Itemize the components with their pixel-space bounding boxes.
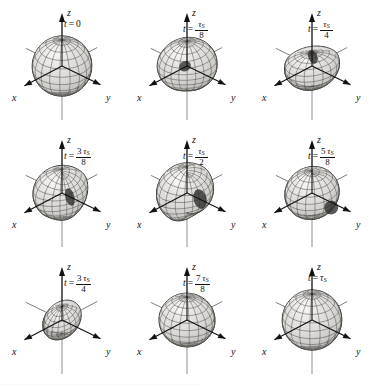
fraction-numerator: τS [197, 20, 205, 30]
figure-panel: zxyt=3 τS4 [0, 254, 125, 381]
figure-panel: zxyt=0 [0, 0, 125, 127]
axis-label-z: z [67, 262, 71, 272]
time-fraction: 3 τS4 [76, 274, 91, 294]
axis-label-x: x [137, 220, 141, 230]
equals-sign: = [69, 279, 74, 289]
fraction-numerator: 3 τS [76, 147, 91, 157]
figure-panel: zxyt=τS2 [125, 127, 250, 254]
clipped-caption-line: ········································… [0, 381, 375, 389]
time-variable: t [308, 274, 311, 284]
axis-label-z: z [192, 8, 196, 18]
time-fraction: τS8 [195, 20, 208, 40]
time-variable: t [183, 279, 186, 289]
time-variable: t [64, 279, 67, 289]
time-label: t=τS2 [183, 147, 208, 167]
axis-label-y: y [231, 93, 235, 103]
time-variable: t [64, 20, 67, 30]
axis-label-y: y [356, 93, 360, 103]
axis-label-z: z [67, 135, 71, 145]
time-variable: t [183, 152, 186, 162]
fraction-numerator: 5 τS [320, 147, 335, 157]
time-variable: t [308, 152, 311, 162]
fraction-numerator: τS [322, 20, 330, 30]
time-label: t=3 τS4 [64, 274, 91, 294]
time-label: t=τS4 [308, 20, 333, 40]
figure-panel: zxyt=5 τS8 [250, 127, 375, 254]
figure-panel: zxyt=τS8 [125, 0, 250, 127]
time-variable: t [183, 25, 186, 35]
equals-sign: = [313, 25, 318, 35]
time-fraction: τS2 [195, 147, 208, 167]
equals-sign: = [69, 20, 74, 30]
fraction-numerator: τS [197, 147, 205, 157]
time-label: t=5 τS8 [308, 147, 335, 167]
equals-sign: = [69, 152, 74, 162]
time-variable: t [308, 25, 311, 35]
equals-sign: = [188, 152, 193, 162]
time-value: 0 [76, 20, 81, 30]
axis-label-x: x [137, 93, 141, 103]
equals-sign: = [188, 279, 193, 289]
fraction-denominator: 2 [198, 158, 205, 168]
fraction-denominator: 8 [80, 158, 87, 168]
axis-label-x: x [12, 220, 16, 230]
axis-label-x: x [262, 347, 266, 357]
fraction-denominator: 8 [198, 31, 205, 41]
axis-label-z: z [317, 8, 321, 18]
axis-label-y: y [356, 347, 360, 357]
axis-label-x: x [12, 347, 16, 357]
time-label: t=0 [64, 20, 81, 30]
axis-label-y: y [106, 220, 110, 230]
axis-label-y: y [106, 93, 110, 103]
fraction-denominator: 4 [323, 31, 330, 41]
equals-sign: = [188, 25, 193, 35]
time-label: t=τS [308, 274, 327, 284]
axis-label-x: x [262, 220, 266, 230]
fraction-denominator: 8 [199, 285, 206, 295]
equals-sign: = [313, 274, 318, 284]
axis-label-x: x [137, 347, 141, 357]
axis-label-z: z [317, 262, 321, 272]
axis-label-y: y [231, 347, 235, 357]
equals-sign: = [313, 152, 318, 162]
time-fraction: 5 τS8 [320, 147, 335, 167]
figure-panel: zxyt=7 τS8 [125, 254, 250, 381]
time-variable: t [64, 152, 67, 162]
axis-label-z: z [192, 262, 196, 272]
time-fraction: 7 τS8 [195, 274, 210, 294]
fraction-numerator: 3 τS [76, 274, 91, 284]
figure-panel: zxyt=τS4 [250, 0, 375, 127]
time-label: t=3 τS8 [64, 147, 91, 167]
axis-label-y: y [231, 220, 235, 230]
fraction-denominator: 8 [324, 158, 331, 168]
axis-label-z: z [192, 135, 196, 145]
figure-panel: zxyt=τS [250, 254, 375, 381]
figure-panel: zxyt=3 τS8 [0, 127, 125, 254]
time-label: t=7 τS8 [183, 274, 210, 294]
axis-label-y: y [356, 220, 360, 230]
axis-label-z: z [67, 8, 71, 18]
axis-label-y: y [106, 347, 110, 357]
time-label: t=τS8 [183, 20, 208, 40]
time-value: τS [320, 274, 327, 284]
time-fraction: τS4 [320, 20, 333, 40]
fraction-denominator: 4 [80, 285, 87, 295]
axis-label-x: x [262, 93, 266, 103]
axis-label-x: x [12, 93, 16, 103]
time-fraction: 3 τS8 [76, 147, 91, 167]
fraction-numerator: 7 τS [195, 274, 210, 284]
axis-label-z: z [317, 135, 321, 145]
figure-panel-grid: zxyt=0zxyt=τS8zxyt=τS4zxyt=3 τS8zxyt=τS2… [0, 0, 375, 389]
